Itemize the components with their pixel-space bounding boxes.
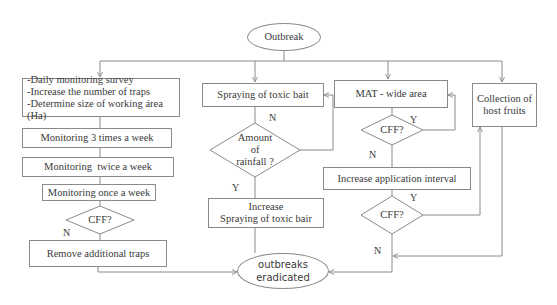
monitor-1x-box: Monitoring once a week [42,184,156,201]
monitor-2x-box: Monitoring twice a week [22,157,174,177]
rainfall-label: Amount of rainfall ? [210,123,300,177]
remove-traps-label: Remove additional traps [47,248,150,260]
action-daily-survey: -Daily monitoring survey [27,74,134,86]
mat-wide-area-box: MAT - wide area [334,80,448,108]
collection-line-2: host fruits [483,105,525,117]
mat-cff2-text: CFF? [380,209,403,221]
outbreak-start-node: Outbreak [247,23,321,51]
left-cff-text: CFF? [88,214,111,226]
rainfall-line-2: of [251,144,260,156]
rainfall-line-1: Amount [238,132,272,144]
mat-cff1-no-label: N [369,149,376,160]
rainfall-line-3: rainfall ? [236,156,274,168]
increase-interval-box: Increase application interval [323,167,471,190]
rainfall-yes-label: Y [232,182,239,193]
increase-interval-label: Increase application interval [338,173,457,185]
collection-host-fruits-box: Collection of host fruits [472,83,537,127]
end-line-1: outbreaks [258,258,308,271]
left-cff-label: CFF? [66,206,134,234]
spraying-bait-label: Spraying of toxic bait [217,89,308,101]
mat-cff2-label: CFF? [361,196,423,234]
monitor-1x-label: Monitoring once a week [48,187,150,199]
remove-traps-box: Remove additional traps [29,240,167,267]
left-cff-no-label: N [63,227,70,238]
outbreaks-eradicated-end-node: outbreaks eradicated [237,253,329,289]
mat-label: MAT - wide area [355,88,426,100]
monitor-3x-box: Monitoring 3 times a week [22,128,172,148]
increase-spraying-line-1: Increase [249,201,284,213]
mat-cff2-no-label: N [374,245,381,256]
spraying-bait-box: Spraying of toxic bait [202,83,324,107]
increase-spraying-box: Increase Spraying of toxic bair [208,198,324,228]
mat-cff1-label: CFF? [361,115,423,145]
collection-line-1: Collection of [477,93,532,105]
rainfall-no-label: N [269,112,276,123]
monitoring-actions-box: -Daily monitoring survey -Increase the n… [22,78,180,117]
monitor-3x-label: Monitoring 3 times a week [40,132,153,144]
outbreak-label: Outbreak [264,31,303,43]
mat-cff1-text: CFF? [380,124,403,136]
action-increase-traps: -Increase the number of traps [27,86,150,98]
increase-spraying-line-2: Spraying of toxic bair [220,213,312,225]
monitor-2x-label: Monitoring twice a week [44,161,152,173]
end-line-2: eradicated [256,271,310,284]
action-working-area: -Determine size of working área (Ha) [27,98,179,122]
